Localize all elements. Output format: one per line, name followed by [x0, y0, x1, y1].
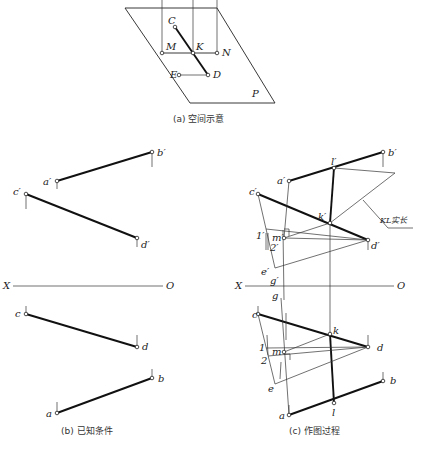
- label-a1: a′: [43, 176, 52, 187]
- line-ab: [57, 378, 152, 413]
- label-e: E: [169, 69, 178, 80]
- point-k: [191, 51, 195, 55]
- label-b1: b′: [388, 147, 397, 158]
- label-2-prime: 2′: [269, 242, 279, 253]
- label-b: b: [390, 375, 396, 386]
- panel-b-given-conditions: a′ b′ c′ d′ X O c d b a (b) 已知条件: [2, 147, 174, 436]
- label-c: C: [168, 15, 176, 26]
- label-1-prime: 1′: [256, 230, 265, 241]
- label-m: M: [165, 41, 177, 52]
- axis-x-label-b: X: [2, 280, 11, 291]
- label-c: c: [252, 309, 258, 320]
- caption-a: (a) 空间示意: [173, 113, 224, 124]
- label-2: 2: [260, 355, 267, 366]
- caption-c: (c) 作图过程: [289, 425, 340, 436]
- axis-o-label-c: O: [397, 280, 405, 291]
- label-a: a: [46, 408, 52, 419]
- label-c1: c′: [13, 186, 22, 197]
- caption-b: (b) 已知条件: [61, 425, 113, 436]
- label-k1: k′: [318, 211, 327, 222]
- axis-x-label-c: X: [234, 280, 243, 291]
- annotation-kl-true-length: KL实长: [379, 216, 408, 225]
- axis-o-label-b: O: [166, 280, 174, 291]
- label-c: c: [15, 308, 21, 319]
- label-plane-p: P: [251, 88, 259, 99]
- label-1: 1: [259, 342, 265, 353]
- label-n: N: [221, 47, 232, 58]
- line-a1b1: [57, 152, 152, 181]
- label-e1: e′: [261, 266, 270, 277]
- label-c1: c′: [249, 186, 258, 197]
- label-b: b: [158, 373, 164, 384]
- panel-a-spatial-sketch: C M K N E D P (a) 空间示意: [125, 0, 275, 124]
- label-k: k: [333, 325, 339, 336]
- label-d1: d′: [141, 239, 150, 250]
- label-l: l: [332, 407, 335, 418]
- label-a: a: [279, 410, 285, 421]
- label-d: d: [142, 341, 148, 352]
- line-ab: [289, 381, 383, 415]
- point-m: [160, 51, 164, 55]
- point-d: [206, 73, 210, 77]
- label-d: D: [212, 69, 221, 80]
- label-d: d: [377, 342, 383, 353]
- line-cd: [258, 314, 368, 347]
- label-a1: a′: [277, 175, 286, 186]
- line-c1d1: [26, 194, 137, 238]
- point-e: [177, 73, 181, 77]
- line-cd: [26, 314, 137, 347]
- point-n: [215, 51, 219, 55]
- label-d1: d′: [371, 240, 380, 251]
- panel-c-construction: X O a′: [234, 147, 413, 436]
- line-k1l1: [330, 168, 334, 223]
- label-e: e: [268, 383, 274, 394]
- label-k: K: [195, 41, 204, 52]
- projection-diagram: C M K N E D P (a) 空间示意 a′ b′ c′ d′ X O: [0, 0, 423, 449]
- label-g: g: [272, 290, 278, 301]
- label-b1: b′: [157, 147, 166, 158]
- label-l1: l′: [331, 156, 337, 167]
- label-g1: g′: [270, 275, 279, 286]
- label-m: m: [272, 346, 281, 357]
- line-kl: [330, 334, 334, 403]
